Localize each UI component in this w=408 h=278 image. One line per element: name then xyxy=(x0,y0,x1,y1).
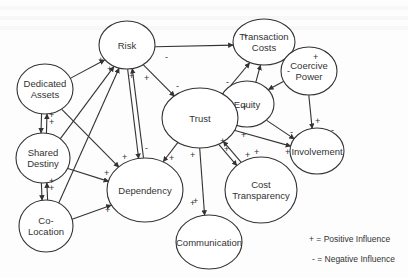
node-label: Co- xyxy=(38,215,53,226)
negative-sign: - xyxy=(165,52,168,62)
positive-sign: + xyxy=(169,153,174,163)
positive-sign: + xyxy=(285,147,290,157)
positive-sign: + xyxy=(243,31,248,41)
edge-risk-to-transaction-costs xyxy=(155,45,233,47)
node-shared-destiny: SharedDestiny xyxy=(16,133,70,183)
positive-sign: + xyxy=(98,55,103,65)
positive-sign: + xyxy=(144,73,149,83)
positive-sign: + xyxy=(241,130,246,140)
edge-dedicated-assets-to-shared-destiny xyxy=(41,114,42,133)
negative-sign: - xyxy=(145,143,148,153)
edge-coercive-power-to-involvement xyxy=(309,95,312,128)
negative-sign: - xyxy=(226,77,229,87)
positive-sign: + xyxy=(129,71,134,81)
positive-sign: + xyxy=(104,168,109,178)
node-label: Shared xyxy=(28,147,59,158)
edge-risk-to-dependency xyxy=(128,69,139,158)
edge-dependency-to-risk xyxy=(132,69,143,158)
positive-sign: + xyxy=(105,205,110,215)
positive-sign: + xyxy=(220,136,225,146)
negative-sign: - xyxy=(290,127,293,137)
edge-trust-to-communication xyxy=(200,148,205,215)
node-cost-transparency: CostTransparency xyxy=(225,157,297,223)
node-label: Dependency xyxy=(118,185,172,196)
node-label: Involvement xyxy=(291,146,343,157)
positive-sign: + xyxy=(193,196,198,206)
edge-shared-destiny-to-dedicated-assets xyxy=(46,114,47,133)
node-label: Destiny xyxy=(27,158,59,169)
positive-sign: + xyxy=(315,116,320,126)
influence-diagram: RiskTransactionCostsCoercivePowerDedicat… xyxy=(0,0,408,278)
edge-shared-destiny-to-co-location xyxy=(41,183,42,200)
positive-sign: + xyxy=(49,183,54,193)
node-involvement: Involvement xyxy=(290,128,344,174)
edge-co-location-to-shared-destiny xyxy=(47,183,48,200)
edge-shared-destiny-to-dependency xyxy=(68,168,109,181)
positive-sign: + xyxy=(313,52,318,62)
legend-positive: + = Positive Influence xyxy=(309,234,390,244)
positive-sign: + xyxy=(49,117,54,127)
node-risk: Risk xyxy=(99,21,155,69)
node-label: Risk xyxy=(118,40,137,51)
node-label: Coercive xyxy=(290,60,328,71)
node-label: Power xyxy=(296,71,323,82)
node-label: Dedicated xyxy=(24,78,67,89)
node-dedicated-assets: DedicatedAssets xyxy=(17,64,73,114)
negative-sign: - xyxy=(287,66,290,76)
positive-sign: + xyxy=(242,102,247,112)
node-dependency: Dependency xyxy=(107,158,183,222)
node-trust: Trust xyxy=(162,88,238,148)
node-label: Assets xyxy=(31,89,60,100)
node-label: Costs xyxy=(252,42,277,53)
node-label: Trust xyxy=(189,113,211,124)
negative-sign: - xyxy=(176,81,179,91)
node-label: Cost xyxy=(251,179,271,190)
positive-sign: + xyxy=(190,150,195,160)
positive-sign: + xyxy=(254,147,259,157)
legend-negative: - = Negative Influence xyxy=(312,254,395,264)
node-label: Location xyxy=(28,226,64,237)
negative-sign: - xyxy=(331,125,334,135)
positive-sign: + xyxy=(122,152,127,162)
negative-sign: - xyxy=(246,56,249,66)
nodes-layer: RiskTransactionCostsCoercivePowerDedicat… xyxy=(16,19,344,269)
positive-sign: + xyxy=(107,64,112,74)
node-label: Transparency xyxy=(232,190,290,201)
node-communication: Communication xyxy=(176,215,242,269)
node-label: Communication xyxy=(176,237,242,248)
positive-sign: + xyxy=(245,150,250,160)
edge-coercive-power-to-equity xyxy=(269,81,284,89)
node-co-location: Co-Location xyxy=(19,200,73,252)
edge-equity-to-transaction-costs xyxy=(256,65,261,82)
